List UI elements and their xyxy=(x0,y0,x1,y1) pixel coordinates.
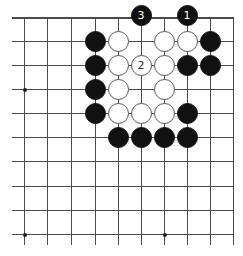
board-top-edge xyxy=(12,17,234,19)
white-stone xyxy=(154,55,175,76)
black-stone xyxy=(177,55,198,76)
white-stone xyxy=(154,79,175,100)
white-stone xyxy=(108,55,129,76)
white-stone xyxy=(108,31,129,52)
white-stone-move-2: 2 xyxy=(131,55,152,76)
black-stone xyxy=(154,127,175,148)
black-stone xyxy=(85,79,106,100)
black-stone xyxy=(85,31,106,52)
black-stone-move-3: 3 xyxy=(131,5,152,26)
star-point xyxy=(163,233,167,237)
black-stone xyxy=(85,55,106,76)
white-stone xyxy=(131,103,152,124)
black-stone xyxy=(177,103,198,124)
grid-line-horizontal xyxy=(12,186,234,187)
black-stone xyxy=(200,55,221,76)
grid-line-vertical xyxy=(47,17,48,245)
white-stone xyxy=(154,31,175,52)
grid-line-vertical xyxy=(71,17,72,245)
black-stone xyxy=(108,127,129,148)
grid-line-vertical xyxy=(24,17,25,245)
black-stone xyxy=(200,31,221,52)
grid-line-horizontal xyxy=(12,161,234,162)
white-stone xyxy=(108,79,129,100)
star-point xyxy=(23,88,27,92)
black-stone xyxy=(85,103,106,124)
white-stone xyxy=(154,103,175,124)
black-stone-move-1: 1 xyxy=(177,5,198,26)
black-stone xyxy=(177,127,198,148)
black-stone xyxy=(131,127,152,148)
grid-line-horizontal xyxy=(12,234,234,235)
star-point xyxy=(23,233,27,237)
grid-line-horizontal xyxy=(12,210,234,211)
board-right-edge xyxy=(233,17,234,245)
white-stone xyxy=(177,31,198,52)
white-stone xyxy=(108,103,129,124)
